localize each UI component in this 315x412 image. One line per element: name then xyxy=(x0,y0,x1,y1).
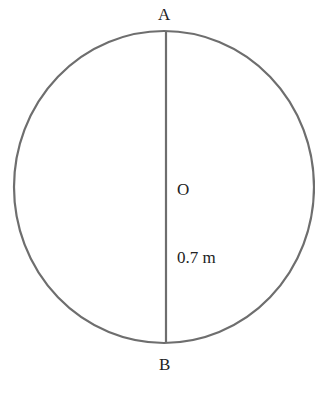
label-radius-length: 0.7 m xyxy=(177,249,216,266)
label-point-a: A xyxy=(158,6,170,23)
circle-diagram xyxy=(0,0,315,412)
label-point-b: B xyxy=(159,356,170,373)
label-center-o: O xyxy=(177,181,189,198)
circle-outline xyxy=(14,31,314,343)
